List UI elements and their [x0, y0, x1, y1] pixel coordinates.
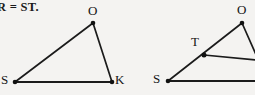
- edge-o-right-vertex: [242, 23, 255, 57]
- vertex-label-t-right: T: [191, 35, 199, 48]
- vertex-label-s-right: S: [153, 72, 160, 85]
- geometry-drawing-canvas: [0, 0, 255, 95]
- edge-o-k: [93, 23, 112, 82]
- vertex-label-k-left: K: [115, 73, 124, 86]
- vertex-dot-o-left: [91, 21, 96, 26]
- figure-sto-group: [166, 21, 255, 84]
- vertex-label-s-left: S: [1, 73, 8, 86]
- edge-s-t-o: [168, 23, 242, 81]
- equation-caption: R = ST.: [0, 1, 39, 14]
- geometry-figure-image: R = ST. S O K S T O: [0, 0, 255, 95]
- edge-s-o: [15, 23, 93, 82]
- triangle-sok-group: [13, 21, 115, 85]
- edge-t-right-vertex: [204, 55, 255, 60]
- vertex-dot-t-right: [202, 53, 207, 58]
- vertex-label-o-left: O: [88, 4, 97, 17]
- vertex-dot-o-right: [240, 21, 245, 26]
- vertex-dot-s-left: [13, 80, 18, 85]
- vertex-label-o-right: O: [237, 3, 246, 16]
- vertex-dot-k-left: [110, 80, 115, 85]
- vertex-dot-s-right: [166, 79, 171, 84]
